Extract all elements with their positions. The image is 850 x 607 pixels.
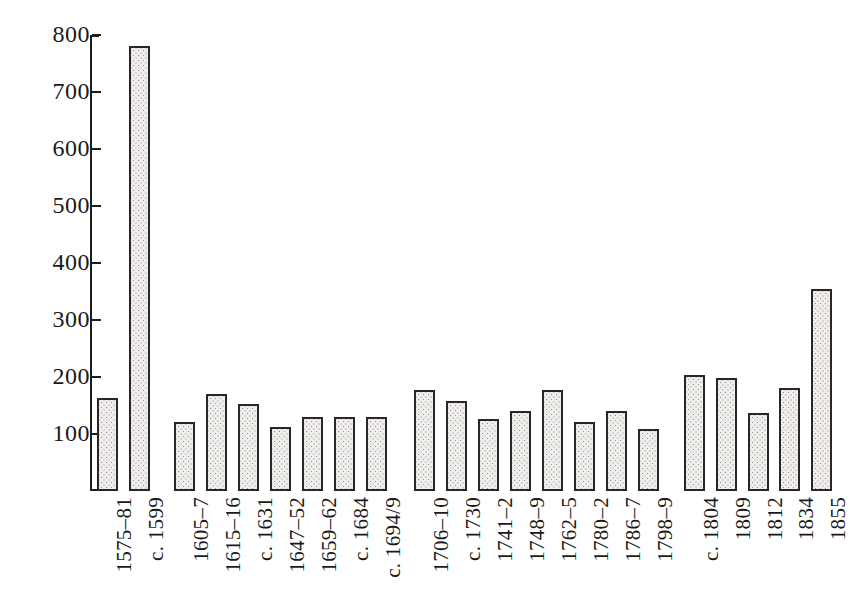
x-axis-label: c. 1730 <box>463 497 484 561</box>
x-axis-label: 1834 <box>796 497 817 540</box>
bar <box>542 390 563 491</box>
x-axis-label: 1575–81 <box>114 497 135 573</box>
x-axis-label: 1809 <box>733 497 754 540</box>
bar <box>574 422 595 491</box>
bar <box>638 429 659 491</box>
bar <box>478 419 499 491</box>
bar <box>684 375 705 491</box>
x-axis-label: c. 1631 <box>255 497 276 561</box>
bar <box>129 46 150 491</box>
bar <box>510 411 531 491</box>
x-axis-label: 1647–52 <box>287 497 308 573</box>
bar <box>811 289 832 491</box>
bar <box>334 417 355 491</box>
x-axis-label: c. 1694/9 <box>383 497 404 578</box>
bar <box>606 411 627 491</box>
x-axis-label: 1786–7 <box>623 497 644 562</box>
x-axis-label: 1615–16 <box>223 497 244 573</box>
x-axis-label: 1762–5 <box>559 497 580 562</box>
plot-area <box>0 0 843 491</box>
bar <box>302 417 323 491</box>
bar <box>270 427 291 491</box>
bar <box>716 378 737 491</box>
bar <box>779 388 800 491</box>
x-axis-label: c. 1804 <box>701 497 722 561</box>
bar <box>97 398 118 491</box>
x-axis-label: 1748–9 <box>527 497 548 562</box>
x-axis-label: c. 1684 <box>351 497 372 561</box>
x-axis-label: 1741–2 <box>495 497 516 562</box>
bar <box>446 401 467 491</box>
x-axis-label: 1659–62 <box>319 497 340 573</box>
bar <box>414 390 435 491</box>
x-axis-label: 1605–7 <box>191 497 212 562</box>
bar <box>238 404 259 491</box>
x-axis-label: 1780–2 <box>591 497 612 562</box>
x-axis-label: c. 1599 <box>146 497 167 561</box>
x-axis-label: 1706–10 <box>431 497 452 573</box>
bar <box>174 422 195 491</box>
x-axis-label: 1855 <box>828 497 849 540</box>
bar <box>366 417 387 491</box>
bar <box>748 413 769 491</box>
x-axis-label: 1812 <box>765 497 786 540</box>
x-axis-label: 1798–9 <box>655 497 676 562</box>
bar <box>206 394 227 491</box>
